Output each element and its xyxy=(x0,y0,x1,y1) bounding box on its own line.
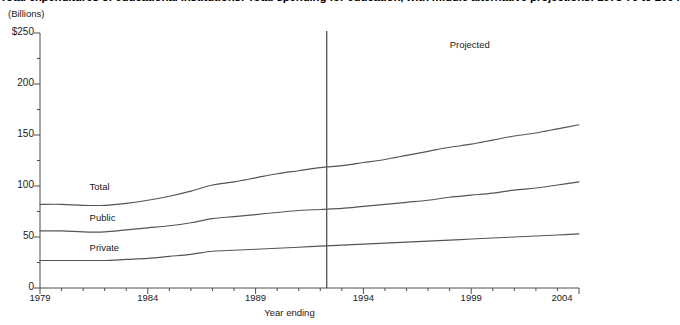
x-tick-label-1984: 1984 xyxy=(128,292,168,303)
y-tick-label-50: 50 xyxy=(0,230,34,241)
series-label-total: Total xyxy=(90,181,110,192)
y-tick-label-200: 200 xyxy=(0,77,34,88)
y-tick-label-100: 100 xyxy=(0,179,34,190)
x-tick-label-2004: 2004 xyxy=(542,292,582,303)
series-line-public xyxy=(40,182,579,232)
y-tick-label-250: $250 xyxy=(0,26,34,37)
y-tick-label-0: 0 xyxy=(0,281,34,292)
series-line-private xyxy=(40,234,579,261)
x-tick-label-1994: 1994 xyxy=(343,292,383,303)
x-tick-label-1989: 1989 xyxy=(236,292,276,303)
y-tick-label-150: 150 xyxy=(0,128,34,139)
x-axis-title: Year ending xyxy=(0,307,579,318)
x-tick-label-1979: 1979 xyxy=(20,292,60,303)
series-label-private: Private xyxy=(90,242,120,253)
x-tick-label-1999: 1999 xyxy=(451,292,491,303)
series-line-total xyxy=(40,125,579,206)
series-label-public: Public xyxy=(90,212,116,223)
